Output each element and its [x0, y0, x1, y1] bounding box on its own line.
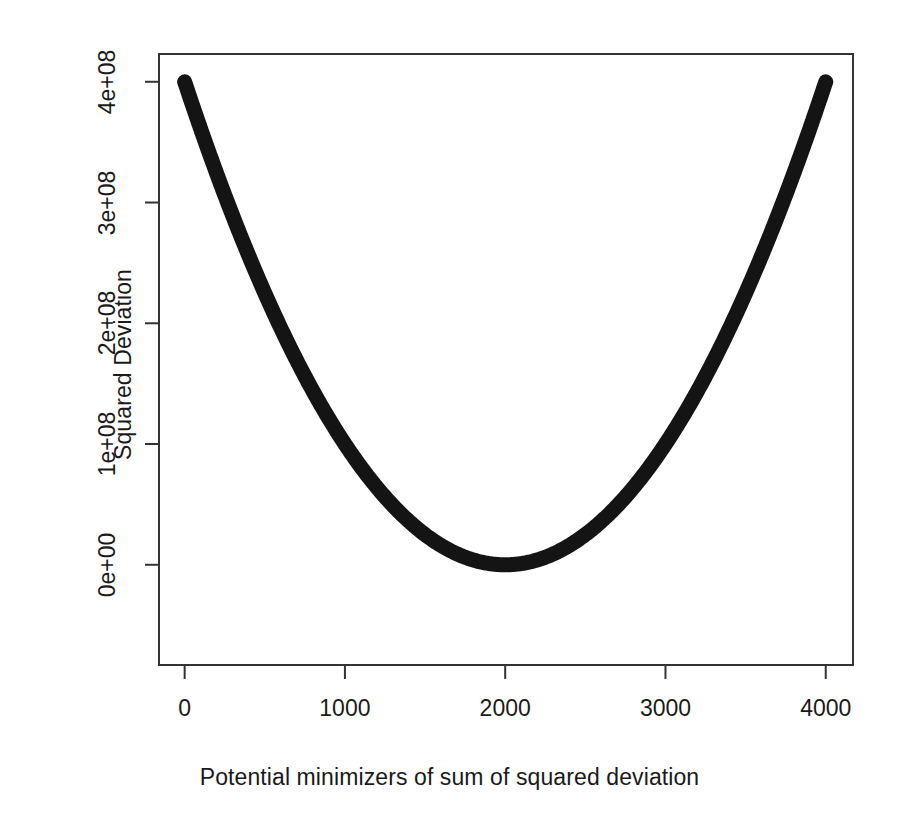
y-tick-label: 1e+08 — [94, 412, 121, 477]
figure-background — [0, 0, 899, 813]
chart-figure: 0e+001e+082e+083e+084e+08010002000300040… — [0, 0, 899, 813]
y-tick-label: 2e+08 — [94, 291, 121, 356]
x-axis-title: Potential minimizers of sum of squared d… — [0, 764, 899, 791]
plot-canvas — [0, 0, 899, 813]
x-tick-label: 2000 — [480, 695, 531, 722]
x-tick-label: 4000 — [800, 695, 851, 722]
y-tick-label: 4e+08 — [94, 49, 121, 114]
y-tick-label: 3e+08 — [94, 170, 121, 235]
x-tick-label: 1000 — [319, 695, 370, 722]
x-tick-label: 0 — [178, 695, 191, 722]
y-tick-label: 0e+00 — [94, 532, 121, 597]
x-tick-label: 3000 — [640, 695, 691, 722]
